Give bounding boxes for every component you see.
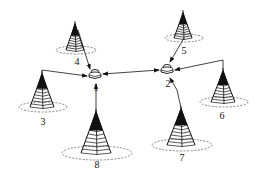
tower-3-icon [19,71,67,112]
tower-label-5: 5 [178,46,190,56]
router-label-1: 1 [90,83,102,93]
tower-7-icon [152,106,212,151]
tower-label-6: 6 [216,111,228,121]
tower-label-8: 8 [91,160,103,170]
link-3-1 [42,70,87,76]
link-6-2 [175,60,223,70]
tower-label-7: 7 [176,153,188,163]
towers-layer [19,10,248,160]
tower-label-4: 4 [71,57,83,67]
tower-6-icon [200,68,248,107]
tower-5-icon [165,10,203,42]
router-2-icon [161,65,173,74]
link-1-2 [103,70,159,74]
tower-4-icon [56,21,96,54]
routers-layer [89,65,173,79]
router-label-2: 2 [162,79,174,89]
router-1-icon [89,70,101,79]
network-diagram [0,0,262,176]
tower-8-icon [62,109,132,160]
tower-label-3: 3 [37,117,49,127]
